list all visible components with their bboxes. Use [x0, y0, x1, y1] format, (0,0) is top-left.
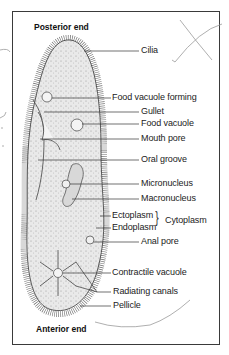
- label-cytoplasm: Cytoplasm: [165, 216, 207, 225]
- label-food-vacuole: Food vacuole: [141, 119, 194, 128]
- posterior-end-label: Posterior end: [34, 23, 89, 32]
- label-radiating-canals: Radiating canals: [113, 287, 178, 296]
- label-gullet: Gullet: [141, 107, 164, 116]
- anterior-end-label: Anterior end: [36, 325, 87, 334]
- food-vacuole-forming: [42, 92, 52, 102]
- label-mouth-pore: Mouth pore: [141, 134, 186, 143]
- label-ectoplasm: Ectoplasm: [112, 211, 153, 220]
- label-pellicle: Pellicle: [113, 301, 141, 310]
- micronucleus: [62, 180, 70, 188]
- label-food-vacuole-forming: Food vacuole forming: [112, 93, 197, 102]
- cytoplasm-brace: }: [155, 209, 158, 226]
- label-micronucleus: Micronucleus: [141, 179, 193, 188]
- label-cilia: Cilia: [141, 46, 158, 55]
- label-contractile-vacuole: Contractile vacuole: [112, 268, 187, 277]
- label-endoplasm: Endoplasm: [112, 223, 156, 232]
- label-macronucleus: Macronucleus: [141, 194, 196, 203]
- contractile-vacuole: [54, 269, 63, 278]
- label-anal-pore: Anal pore: [141, 237, 179, 246]
- food-vacuole: [71, 119, 83, 131]
- anal-pore: [86, 236, 94, 244]
- label-oral-groove: Oral groove: [141, 155, 187, 164]
